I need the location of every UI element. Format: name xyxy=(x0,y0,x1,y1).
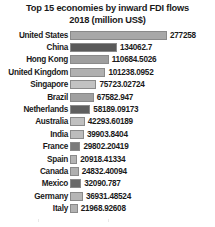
bar-row: Spain20918.41334 xyxy=(0,153,215,165)
category-label: China xyxy=(0,43,70,52)
bar xyxy=(70,105,90,114)
axis-tick-artifacts xyxy=(0,217,215,225)
value-label: 75723.02724 xyxy=(96,80,144,89)
bar-track: 134062.7 xyxy=(70,41,215,53)
category-label: Australia xyxy=(0,117,70,126)
value-label: 29802.20419 xyxy=(80,142,128,151)
category-label: Canada xyxy=(0,167,70,176)
bar-row: Australia42293.60189 xyxy=(0,116,215,128)
bar-row: Italy21968.92608 xyxy=(0,202,215,214)
bar xyxy=(70,68,105,77)
category-label: United Kingdom xyxy=(0,68,70,77)
bar xyxy=(70,167,79,176)
bar-track: 75723.02724 xyxy=(70,79,215,91)
bar-row: Hong Kong110684.5026 xyxy=(0,54,215,66)
value-label: 20918.41334 xyxy=(77,155,125,164)
value-label: 42293.60189 xyxy=(85,117,133,126)
bar-chart: Top 15 economies by inward FDI flows 201… xyxy=(0,0,215,227)
category-label: United States xyxy=(0,31,70,40)
category-label: Spain xyxy=(0,155,70,164)
bar-track: 67582.947 xyxy=(70,91,215,103)
chart-title-line-2: 2018 (million US$) xyxy=(0,15,215,27)
bar-row: India39903.8404 xyxy=(0,128,215,140)
category-label: Italy xyxy=(0,204,70,213)
category-label: France xyxy=(0,142,70,151)
bar-row: Brazil67582.947 xyxy=(0,91,215,103)
bar-row: Singapore75723.02724 xyxy=(0,79,215,91)
value-label: 67582.947 xyxy=(94,93,133,102)
value-label: 277258 xyxy=(167,31,196,40)
chart-title: Top 15 economies by inward FDI flows 201… xyxy=(0,0,215,26)
bar xyxy=(70,130,84,139)
category-label: Singapore xyxy=(0,80,70,89)
value-label: 21968.92608 xyxy=(78,204,126,213)
axis-tick xyxy=(108,219,109,222)
bar xyxy=(70,204,78,213)
bar-track: 24832.40094 xyxy=(70,165,215,177)
value-label: 36931.48524 xyxy=(83,192,131,201)
bar-row: China134062.7 xyxy=(0,41,215,53)
bar xyxy=(70,80,96,89)
bar-track: 39903.8404 xyxy=(70,128,215,140)
bar-track: 58189.09173 xyxy=(70,103,215,115)
bar-track: 20918.41334 xyxy=(70,153,215,165)
plot-area: United States277258China134062.7Hong Kon… xyxy=(0,29,215,215)
bar xyxy=(70,142,80,151)
bar xyxy=(70,43,117,52)
bar-track: 277258 xyxy=(70,29,215,41)
bar-row: Germany36931.48524 xyxy=(0,190,215,202)
bar-row: Netherlands58189.09173 xyxy=(0,103,215,115)
value-label: 24832.40094 xyxy=(79,167,127,176)
value-label: 32090.787 xyxy=(81,179,120,188)
bar-track: 36931.48524 xyxy=(70,190,215,202)
category-label: Germany xyxy=(0,192,70,201)
category-label: Netherlands xyxy=(0,105,70,114)
bar xyxy=(70,179,81,188)
bar xyxy=(70,155,77,164)
bar-track: 101238.0952 xyxy=(70,66,215,78)
bar-row: United Kingdom101238.0952 xyxy=(0,66,215,78)
bar-row: Canada24832.40094 xyxy=(0,165,215,177)
bar xyxy=(70,55,109,64)
bar xyxy=(70,192,83,201)
value-label: 134062.7 xyxy=(117,43,152,52)
bar-row: United States277258 xyxy=(0,29,215,41)
category-label: India xyxy=(0,130,70,139)
bar xyxy=(70,117,85,126)
bar-track: 21968.92608 xyxy=(70,202,215,214)
bar-track: 42293.60189 xyxy=(70,116,215,128)
category-label: Brazil xyxy=(0,93,70,102)
bar-row: France29802.20419 xyxy=(0,141,215,153)
bar xyxy=(70,93,94,102)
bar xyxy=(70,31,167,40)
axis-tick xyxy=(38,219,39,222)
value-label: 110684.5026 xyxy=(109,55,157,64)
bar-track: 32090.787 xyxy=(70,178,215,190)
bar-track: 110684.5026 xyxy=(70,54,215,66)
bar-row: Mexico32090.787 xyxy=(0,178,215,190)
category-label: Hong Kong xyxy=(0,55,70,64)
value-label: 101238.0952 xyxy=(105,68,153,77)
value-label: 39903.8404 xyxy=(84,130,128,139)
category-label: Mexico xyxy=(0,179,70,188)
bar-track: 29802.20419 xyxy=(70,141,215,153)
value-label: 58189.09173 xyxy=(90,105,138,114)
chart-title-line-1: Top 15 economies by inward FDI flows xyxy=(0,3,215,15)
